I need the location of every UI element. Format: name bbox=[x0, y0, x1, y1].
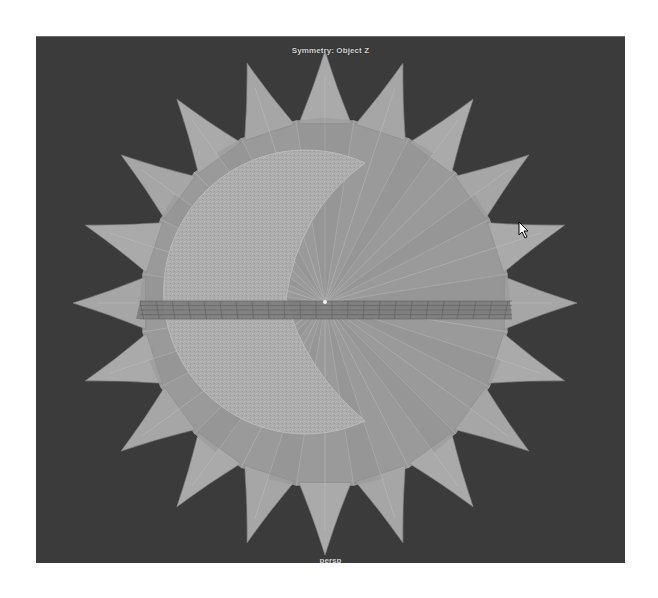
3d-viewport[interactable]: Symmetry: Object Z persp bbox=[36, 36, 625, 563]
camera-label: persp bbox=[36, 556, 625, 563]
scene-canvas[interactable] bbox=[36, 37, 625, 563]
symmetry-label: Symmetry: Object Z bbox=[36, 46, 625, 55]
arrow-cursor-icon bbox=[518, 221, 530, 239]
pivot-point bbox=[323, 300, 327, 304]
